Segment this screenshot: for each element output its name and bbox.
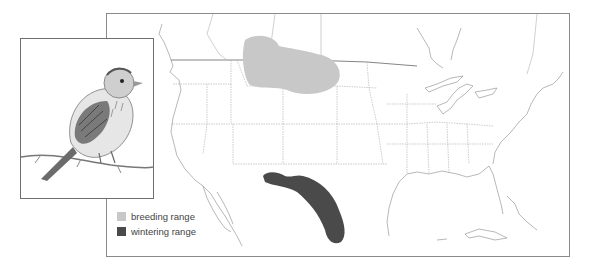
- legend-item-breeding: breeding range: [117, 209, 196, 224]
- legend-label: wintering range: [131, 226, 196, 237]
- breeding-range-area: [243, 36, 340, 94]
- wintering-range-area: [263, 172, 345, 243]
- coastlines: [159, 24, 563, 246]
- breeding-swatch-icon: [117, 212, 126, 221]
- bird-illustration: [20, 38, 154, 199]
- wintering-swatch-icon: [117, 227, 126, 236]
- legend-item-wintering: wintering range: [117, 224, 196, 239]
- map-legend: breeding range wintering range: [117, 209, 196, 239]
- legend-label: breeding range: [131, 211, 195, 222]
- sparrow-drawing-icon: [21, 39, 153, 198]
